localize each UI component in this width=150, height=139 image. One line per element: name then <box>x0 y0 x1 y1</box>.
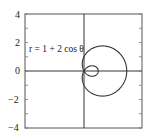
polar-plot <box>0 0 150 139</box>
y-tick-4: 4 <box>15 10 20 20</box>
y-tick-2: 2 <box>15 38 20 48</box>
equation-label: r = 1 + 2 cos θ <box>29 44 84 54</box>
y-tick-neg4: −4 <box>8 123 19 133</box>
y-tick-0: 0 <box>15 66 20 76</box>
y-tick-neg2: −2 <box>8 95 19 105</box>
